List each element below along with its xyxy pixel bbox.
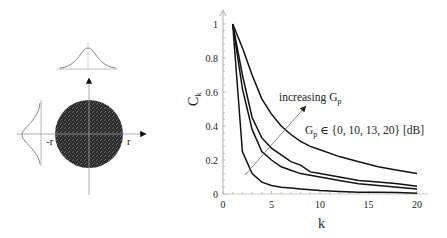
- x-axis-label: k: [318, 216, 325, 231]
- svg-text:Ck: Ck: [186, 92, 203, 106]
- y-axis-label: Ck: [186, 92, 203, 106]
- curve-line: [233, 24, 417, 193]
- left-gaussian-icon: [22, 100, 41, 166]
- label-neg-r: -r: [46, 135, 54, 147]
- x-tick-label: 0: [221, 199, 226, 210]
- y-ticks: [223, 24, 226, 194]
- y-tick-label: 0: [213, 189, 218, 200]
- curve-line: [233, 24, 417, 186]
- x-tick-label: 5: [269, 199, 274, 210]
- y-tick-label: 0.6: [206, 87, 219, 98]
- x-tick-label: 10: [315, 199, 325, 210]
- y-tick-label: 0.8: [206, 53, 219, 64]
- figure: -r r 05101520 00.20.40.60.81 k Ck increa…: [0, 0, 447, 238]
- increasing-label: increasing Gp: [279, 91, 341, 106]
- constellation-diagram: -r r: [17, 42, 145, 195]
- curve-line: [233, 24, 417, 189]
- gp-set-label: Gp ∈ {0, 10, 13, 20} [dB]: [305, 124, 424, 139]
- label-pos-r: r: [127, 135, 131, 147]
- y-tick-label: 0.2: [206, 155, 219, 166]
- x-tick-label: 15: [364, 199, 374, 210]
- x-tick-labels: 05101520: [221, 199, 423, 210]
- y-tick-labels: 00.20.40.60.81: [206, 19, 219, 200]
- y-tick-label: 0.4: [206, 121, 219, 132]
- increasing-arrow: [245, 107, 305, 175]
- curves: [233, 24, 417, 193]
- top-gaussian-icon: [57, 42, 118, 70]
- chart: 05101520 00.20.40.60.81 k Ck increasing …: [186, 10, 428, 231]
- x-tick-label: 20: [412, 199, 422, 210]
- y-tick-label: 1: [213, 19, 218, 30]
